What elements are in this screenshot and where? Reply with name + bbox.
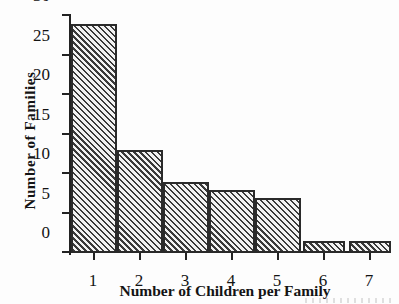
bar-6 bbox=[303, 241, 345, 253]
y-tick-25 bbox=[62, 54, 69, 56]
bar-1 bbox=[71, 24, 117, 253]
y-tick-label-30: 30 bbox=[10, 0, 50, 6]
bar-7 bbox=[349, 241, 391, 253]
x-tick-7 bbox=[369, 253, 371, 260]
y-tick-label-0: 0 bbox=[10, 223, 50, 243]
y-tick-10 bbox=[62, 172, 69, 174]
y-tick-0 bbox=[62, 251, 69, 253]
bar-4 bbox=[209, 190, 255, 253]
histogram-chart: Number of Families 0 5 10 15 20 25 30 bbox=[0, 0, 399, 304]
y-axis-title: Number of Families bbox=[22, 26, 39, 256]
y-tick-label-15: 15 bbox=[10, 105, 50, 125]
scan-artifact bbox=[305, 298, 395, 303]
y-tick-5 bbox=[62, 212, 69, 214]
x-tick-3 bbox=[185, 253, 187, 260]
y-tick-20 bbox=[62, 93, 69, 95]
bar-2 bbox=[117, 150, 163, 253]
x-tick-4 bbox=[231, 253, 233, 260]
y-tick-label-25: 25 bbox=[10, 26, 50, 46]
plot-area: 0 5 10 15 20 25 30 1 2 3 4 5 6 7 bbox=[69, 16, 389, 253]
x-tick-5 bbox=[277, 253, 279, 260]
bar-3 bbox=[163, 182, 209, 253]
bar-5 bbox=[255, 198, 301, 253]
x-tick-2 bbox=[139, 253, 141, 260]
x-tick-1 bbox=[93, 253, 95, 260]
y-tick-15 bbox=[62, 133, 69, 135]
y-tick-label-10: 10 bbox=[10, 144, 50, 164]
x-tick-6 bbox=[323, 253, 325, 260]
y-tick-30 bbox=[62, 14, 69, 16]
y-tick-label-5: 5 bbox=[10, 184, 50, 204]
y-tick-label-20: 20 bbox=[10, 65, 50, 85]
